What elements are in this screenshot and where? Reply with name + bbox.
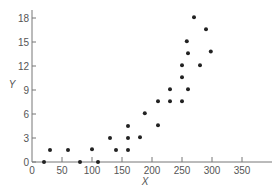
data-point <box>180 99 184 103</box>
x-tick-label: 350 <box>234 165 251 176</box>
axes: 0501001502002503003500369121518 <box>18 10 272 176</box>
x-tick-label: 200 <box>144 165 161 176</box>
x-axis-label: X <box>141 176 149 187</box>
y-tick-label: 9 <box>23 85 29 96</box>
data-point <box>180 75 184 79</box>
data-points <box>42 15 213 164</box>
data-point <box>185 39 189 43</box>
y-tick-label: 6 <box>23 109 29 120</box>
data-point <box>192 15 196 19</box>
data-point <box>180 63 184 67</box>
data-point <box>209 50 213 54</box>
y-tick-label: 0 <box>23 157 29 168</box>
data-point <box>126 136 130 140</box>
data-point <box>168 99 172 103</box>
data-point <box>204 27 208 31</box>
data-point <box>78 160 82 164</box>
y-tick-label: 3 <box>23 133 29 144</box>
x-tick-label: 100 <box>84 165 101 176</box>
data-point <box>198 63 202 67</box>
data-point <box>156 99 160 103</box>
x-tick-label: 250 <box>174 165 191 176</box>
y-tick-label: 12 <box>18 61 30 72</box>
y-tick-label: 15 <box>18 37 30 48</box>
data-point <box>143 111 147 115</box>
x-tick-label: 300 <box>204 165 221 176</box>
x-tick-label: 0 <box>29 165 35 176</box>
data-point <box>186 87 190 91</box>
data-point <box>156 123 160 127</box>
data-point <box>126 124 130 128</box>
data-point <box>138 135 142 139</box>
data-point <box>186 51 190 55</box>
scatter-chart: 0501001502002503003500369121518 X Y <box>0 0 278 191</box>
data-point <box>114 148 118 152</box>
x-tick-label: 50 <box>56 165 68 176</box>
data-point <box>48 148 52 152</box>
data-point <box>66 148 70 152</box>
data-point <box>126 148 130 152</box>
data-point <box>96 160 100 164</box>
y-tick-label: 18 <box>18 13 30 24</box>
data-point <box>168 87 172 91</box>
x-tick-label: 150 <box>114 165 131 176</box>
y-axis-label: Y <box>9 79 17 90</box>
data-point <box>42 160 46 164</box>
data-point <box>90 147 94 151</box>
data-point <box>108 136 112 140</box>
